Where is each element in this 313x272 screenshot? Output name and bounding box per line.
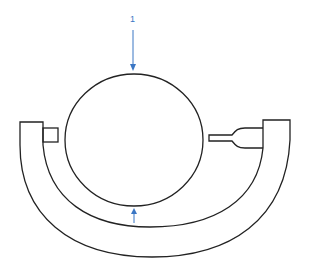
bottom-arrow-icon xyxy=(131,208,137,223)
frame-outline xyxy=(20,120,290,257)
micrometer-diagram xyxy=(0,0,313,272)
top-arrow-icon xyxy=(130,30,136,71)
label-1: 1 xyxy=(130,14,135,24)
spindle xyxy=(209,128,263,148)
anvil xyxy=(43,128,58,142)
sphere xyxy=(65,74,203,206)
